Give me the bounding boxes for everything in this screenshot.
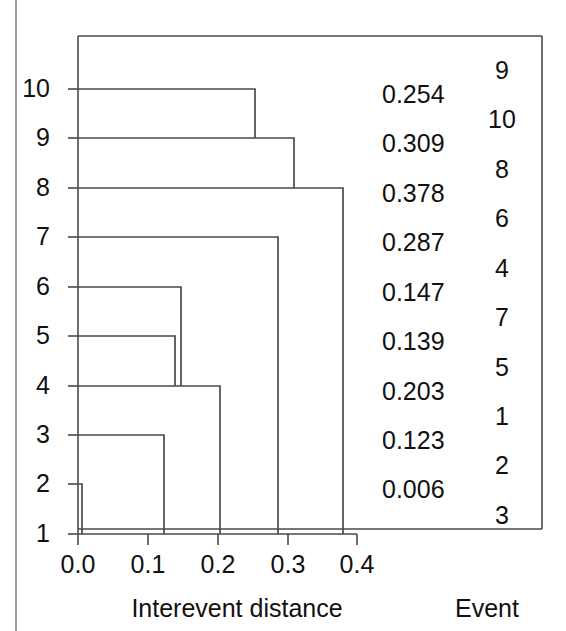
row-label-4: 4 — [6, 373, 50, 398]
event-order-7: 5 — [482, 355, 522, 380]
event-column-title: Event — [432, 596, 542, 621]
distance-value-0.006: 0.006 — [382, 477, 445, 502]
link-0.309 — [78, 138, 294, 188]
distance-value-0.123: 0.123 — [382, 428, 445, 453]
x-tick-label-0.3: 0.3 — [253, 552, 323, 577]
y-axis-ticks — [68, 89, 78, 534]
link-0.254 — [78, 89, 255, 138]
event-order-4: 6 — [482, 206, 522, 231]
row-label-1: 1 — [6, 521, 50, 546]
distance-value-0.139: 0.139 — [382, 329, 445, 354]
row-label-5: 5 — [6, 323, 50, 348]
x-tick-label-0.1: 0.1 — [113, 552, 183, 577]
distance-value-0.378: 0.378 — [382, 181, 445, 206]
distance-value-0.309: 0.309 — [382, 131, 445, 156]
x-tick-label-0.0: 0.0 — [43, 552, 113, 577]
row-label-2: 2 — [6, 471, 50, 496]
x-tick-label-0.2: 0.2 — [183, 552, 253, 577]
distance-value-0.203: 0.203 — [382, 379, 445, 404]
link-0.139 — [78, 336, 175, 386]
event-order-3: 8 — [482, 157, 522, 182]
distance-value-0.254: 0.254 — [382, 82, 445, 107]
link-0.203 — [78, 386, 220, 534]
event-order-6: 7 — [482, 305, 522, 330]
event-order-1: 9 — [482, 58, 522, 83]
x-axis — [78, 534, 357, 545]
dendrogram-figure: 10 9 8 7 6 5 4 3 2 1 0.254 0.309 0.378 0… — [0, 0, 566, 631]
row-label-8: 8 — [6, 175, 50, 200]
x-tick-label-0.4: 0.4 — [322, 552, 392, 577]
row-label-3: 3 — [6, 422, 50, 447]
event-order-2: 10 — [482, 107, 522, 132]
plot-frame — [78, 36, 542, 534]
link-0.378 — [78, 188, 343, 534]
event-order-8: 1 — [482, 404, 522, 429]
link-0.123 — [78, 435, 164, 534]
event-order-5: 4 — [482, 256, 522, 281]
distance-value-0.147: 0.147 — [382, 280, 445, 305]
row-label-7: 7 — [6, 224, 50, 249]
row-label-10: 10 — [6, 76, 50, 101]
x-axis-title: Interevent distance — [92, 596, 382, 621]
row-label-9: 9 — [6, 125, 50, 150]
distance-value-0.287: 0.287 — [382, 230, 445, 255]
row-label-6: 6 — [6, 274, 50, 299]
event-order-10: 3 — [482, 503, 522, 528]
dendrogram-links — [78, 89, 343, 534]
event-order-9: 2 — [482, 453, 522, 478]
